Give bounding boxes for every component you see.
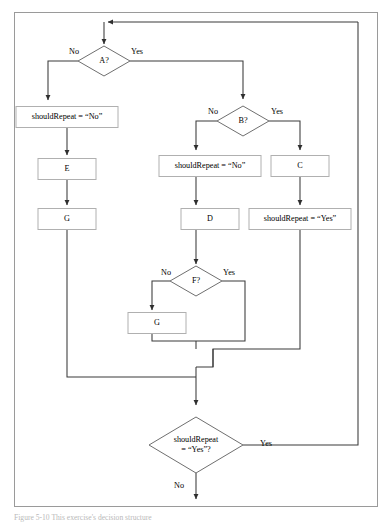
edge-a-yes (130, 61, 243, 99)
edge-f-no (152, 281, 170, 310)
node-decision-f (170, 266, 222, 296)
edge-g1-to-merge (67, 230, 196, 377)
node-decision-a (78, 46, 130, 76)
edge-sryes-to-merge (196, 230, 300, 367)
node-decision-b (217, 106, 269, 136)
node-g-left (38, 209, 96, 230)
flowchart-canvas (0, 0, 392, 525)
edge-g2-to-merge (152, 334, 196, 341)
node-d (181, 209, 239, 230)
edge-b-no (196, 121, 217, 150)
figure-caption: Figure 5-10 This exercise's decision str… (14, 513, 378, 522)
node-shouldrepeat-no-2 (159, 156, 261, 177)
node-e (38, 159, 96, 180)
node-shouldrepeat-yes (249, 209, 351, 230)
node-g-lower (128, 313, 186, 334)
node-c (271, 156, 329, 177)
flow-nodes (16, 46, 351, 473)
figure-root: A? shouldRepeat = “No” E G B? shouldRepe… (0, 0, 392, 525)
edge-b-yes (269, 121, 300, 150)
edge-a-no (48, 61, 78, 100)
node-shouldrepeat-no-1 (16, 107, 118, 128)
node-decision-repeat (149, 417, 243, 473)
